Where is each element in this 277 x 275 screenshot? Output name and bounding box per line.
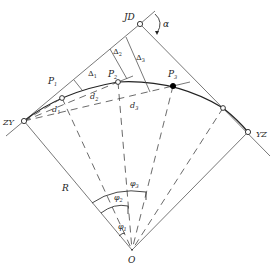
label-p2: P2 <box>107 69 117 80</box>
radial-p4 <box>132 108 223 250</box>
label-alpha: α <box>163 19 169 29</box>
point-p1 <box>60 96 65 101</box>
label-phi2: φ2 <box>114 193 123 203</box>
label-o: O <box>128 255 136 265</box>
label-d2: d2 <box>90 92 98 102</box>
tangent-line-right <box>140 24 270 156</box>
label-phi1: φ1 <box>118 222 127 232</box>
chord-d2 <box>24 82 118 121</box>
point-p2 <box>116 80 121 85</box>
chord-d3 <box>24 86 173 121</box>
label-r: R <box>61 183 69 193</box>
label-delta1: Δ1 <box>88 69 97 79</box>
point-zy <box>21 118 26 123</box>
radius-line-zy <box>24 121 132 250</box>
label-yz: YZ <box>256 130 267 139</box>
label-delta3: Δ3 <box>136 53 145 63</box>
label-p1: P1 <box>47 76 57 87</box>
point-o <box>131 249 133 251</box>
point-yz <box>245 129 250 134</box>
label-delta2: Δ2 <box>113 47 122 57</box>
label-d3: d3 <box>130 101 138 111</box>
offset-delta1 <box>74 80 82 90</box>
point-p4 <box>221 106 226 111</box>
point-jd <box>137 21 142 26</box>
offset-delta3 <box>126 37 150 92</box>
alpha-arrowhead-icon <box>155 31 159 35</box>
curve-layout-diagram: JD α ZY YZ O R P1 P2 P3 Δ1 Δ2 Δ3 d1 d2 d… <box>0 0 277 275</box>
angle-arc-phi1 <box>119 233 125 236</box>
label-phi3: φ3 <box>130 179 139 189</box>
label-zy: ZY <box>2 118 15 127</box>
alpha-arc <box>155 14 160 33</box>
radius-line-yz <box>132 132 248 250</box>
label-jd: JD <box>122 12 135 22</box>
point-p3 <box>170 83 175 88</box>
label-p3: P3 <box>167 69 177 80</box>
